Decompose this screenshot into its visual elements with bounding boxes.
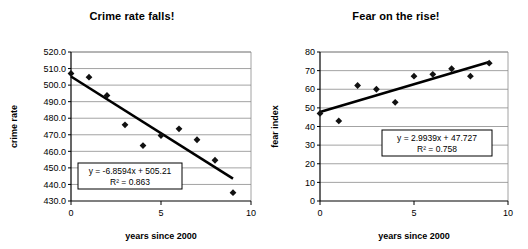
y-tick-label: 50 [305, 103, 315, 113]
y-tick-label: 30 [305, 140, 315, 150]
chart-panel-crime-rate: Crime rate falls! 430.0440.0450.0460.047… [0, 0, 264, 249]
trendline-equation-text: y = 2.9939x + 47.727 [397, 133, 477, 143]
y-tick-label: 460.0 [43, 147, 66, 157]
x-axis-title: years since 2000 [378, 231, 450, 241]
data-point-marker [467, 73, 474, 80]
y-tick-label: 470.0 [43, 130, 66, 140]
data-point-marker [230, 189, 237, 196]
y-tick-label: 490.0 [43, 97, 66, 107]
data-point-marker [86, 74, 93, 81]
y-tick-label: 0 [310, 196, 315, 206]
y-tick-label: 70 [305, 66, 315, 76]
trendline-r-squared-text: R² = 0.758 [417, 144, 457, 154]
data-point-marker [122, 121, 129, 128]
y-axis-title: fear index [270, 105, 280, 148]
data-point-marker [140, 142, 147, 149]
chart-panel-fear-index: Fear on the rise! 010203040506070800510y… [264, 0, 528, 249]
y-tick-label: 40 [305, 122, 315, 132]
charts-row: Crime rate falls! 430.0440.0450.0460.047… [0, 0, 528, 249]
data-point-marker [194, 136, 201, 143]
y-tick-label: 60 [305, 84, 315, 94]
y-tick-label: 20 [305, 159, 315, 169]
trendline-equation-text: y = -6.8594x + 505.21 [89, 166, 172, 176]
trendline-r-squared-text: R² = 0.863 [110, 177, 150, 187]
x-tick-label: 0 [317, 208, 322, 218]
y-axis-title: crime rate [9, 105, 19, 148]
x-tick-label: 5 [411, 208, 416, 218]
trendline [320, 62, 489, 112]
data-point-marker [373, 86, 380, 93]
y-tick-label: 10 [305, 178, 315, 188]
x-tick-label: 10 [503, 208, 513, 218]
y-tick-label: 500.0 [43, 80, 66, 90]
data-point-marker [486, 60, 493, 67]
data-point-marker [68, 70, 75, 77]
y-tick-label: 80 [305, 47, 315, 57]
data-point-marker [335, 118, 342, 125]
x-axis-title: years since 2000 [125, 231, 197, 241]
y-tick-label: 510.0 [43, 64, 66, 74]
x-tick-label: 5 [158, 208, 163, 218]
y-tick-label: 480.0 [43, 113, 66, 123]
y-tick-label: 450.0 [43, 163, 66, 173]
data-point-marker [212, 157, 219, 164]
x-tick-label: 0 [68, 208, 73, 218]
y-tick-label: 430.0 [43, 196, 66, 206]
x-tick-label: 10 [246, 208, 256, 218]
data-point-marker [392, 99, 399, 106]
data-point-marker [411, 73, 418, 80]
chart-plot-fear-index: 010203040506070800510y = 2.9939x + 47.72… [264, 0, 528, 249]
y-tick-label: 440.0 [43, 180, 66, 190]
chart-plot-crime-rate: 430.0440.0450.0460.0470.0480.0490.0500.0… [0, 0, 264, 249]
data-point-marker [354, 82, 361, 89]
data-point-marker [176, 125, 183, 132]
y-tick-label: 520.0 [43, 47, 66, 57]
